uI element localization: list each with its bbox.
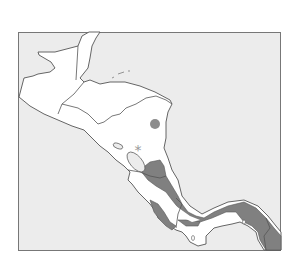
island-coiba	[192, 236, 195, 241]
island-panama	[243, 220, 246, 224]
dot-marker	[150, 119, 160, 129]
distribution-map: Central America distribution map	[0, 0, 300, 269]
asterisk-marker: *	[135, 142, 142, 158]
